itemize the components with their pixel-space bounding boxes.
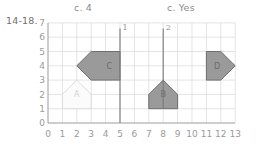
y-tick-label: 4	[39, 61, 45, 71]
shape-c	[77, 52, 120, 81]
x-tick-label: 13	[229, 129, 240, 139]
x-tick-label: 10	[186, 129, 198, 139]
x-tick-label: 6	[132, 129, 138, 139]
x-tick-label: 2	[74, 129, 80, 139]
y-tick-label: 1	[39, 104, 45, 114]
coordinate-grid-svg: ABCD 12 01234567891011121301234567	[0, 0, 262, 145]
x-tick-label: 11	[201, 129, 212, 139]
reflection-lines-group: 12	[120, 23, 171, 123]
shape-label-a: A	[74, 90, 80, 99]
x-tick-label: 5	[117, 129, 123, 139]
y-tick-label: 7	[39, 18, 45, 28]
x-tick-label: 4	[103, 129, 109, 139]
x-tick-label: 8	[160, 129, 166, 139]
x-tick-label: 0	[45, 129, 51, 139]
reflection-line-label-1: 1	[123, 23, 128, 32]
x-tick-label: 3	[88, 129, 94, 139]
shape-d	[206, 52, 235, 81]
coordinate-grid-figure: ABCD 12 01234567891011121301234567	[0, 0, 262, 145]
y-tick-label: 3	[39, 75, 45, 85]
worksheet-page: c. 4 c. Yes 14-18. ABCD 12 0123456789101…	[0, 0, 262, 145]
x-tick-label: 1	[60, 129, 66, 139]
x-tick-label: 12	[215, 129, 226, 139]
shape-label-c: C	[106, 62, 112, 71]
y-tick-label: 6	[39, 32, 45, 42]
x-tick-label: 7	[146, 129, 152, 139]
reflection-line-label-2: 2	[166, 23, 171, 32]
y-tick-label: 0	[39, 118, 45, 128]
y-tick-label: 2	[39, 90, 45, 100]
shape-label-d: D	[214, 62, 220, 71]
x-tick-label: 9	[175, 129, 181, 139]
y-tick-label: 5	[39, 47, 45, 57]
